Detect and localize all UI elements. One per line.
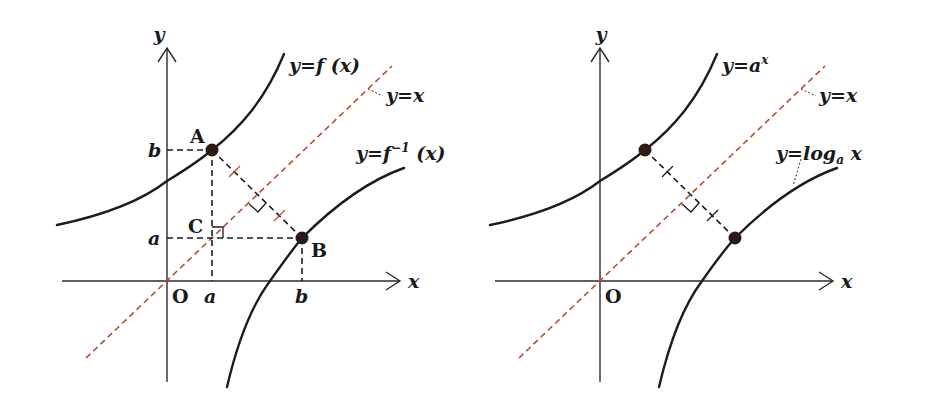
right-angle-mark-AB	[249, 203, 266, 212]
label-exponential: y=ax	[721, 53, 769, 76]
identity-line	[86, 66, 392, 358]
x-tick-a: a	[204, 285, 216, 307]
x-tick-b: b	[295, 285, 308, 307]
identity-leader	[801, 89, 816, 96]
curve-f	[57, 54, 284, 225]
left-panel: y x O A B C b a a b y=f (x) y=x y=f−1 (x…	[57, 23, 445, 387]
equal-tick-2	[274, 210, 285, 221]
point-on-logarithm	[729, 232, 742, 245]
identity-line	[519, 66, 825, 358]
diagram-canvas: y x O A B C b a a b y=f (x) y=x y=f−1 (x…	[0, 0, 927, 413]
label-f-inverse: y=f−1 (x)	[355, 141, 445, 164]
x-axis-label: x	[407, 270, 420, 292]
right-panel: y x O y=ax y=x y=loga x	[490, 23, 863, 387]
x-axis-label: x	[840, 270, 853, 292]
point-on-exponential	[639, 144, 652, 157]
point-B-label: B	[311, 239, 327, 261]
y-axis-label: y	[594, 23, 608, 45]
curve-logarithm	[659, 168, 837, 387]
identity-leader	[368, 89, 383, 96]
point-A	[206, 144, 219, 157]
point-A-label: A	[189, 125, 205, 147]
label-identity-left: y=x	[385, 84, 425, 106]
right-angle-mark	[682, 203, 699, 212]
label-logarithm: y=loga x	[775, 142, 863, 167]
y-axis-label: y	[152, 23, 166, 45]
label-identity-right: y=x	[818, 84, 858, 106]
label-f: y=f (x)	[288, 54, 360, 76]
equal-tick-2	[707, 210, 718, 221]
origin-label: O	[172, 285, 189, 307]
curve-exponential	[490, 54, 717, 225]
curve-f-inverse	[227, 168, 404, 387]
point-C-label: C	[188, 215, 203, 237]
origin-label: O	[605, 285, 622, 307]
y-tick-a: a	[148, 227, 160, 249]
point-B	[296, 232, 309, 245]
y-tick-b: b	[148, 139, 161, 161]
